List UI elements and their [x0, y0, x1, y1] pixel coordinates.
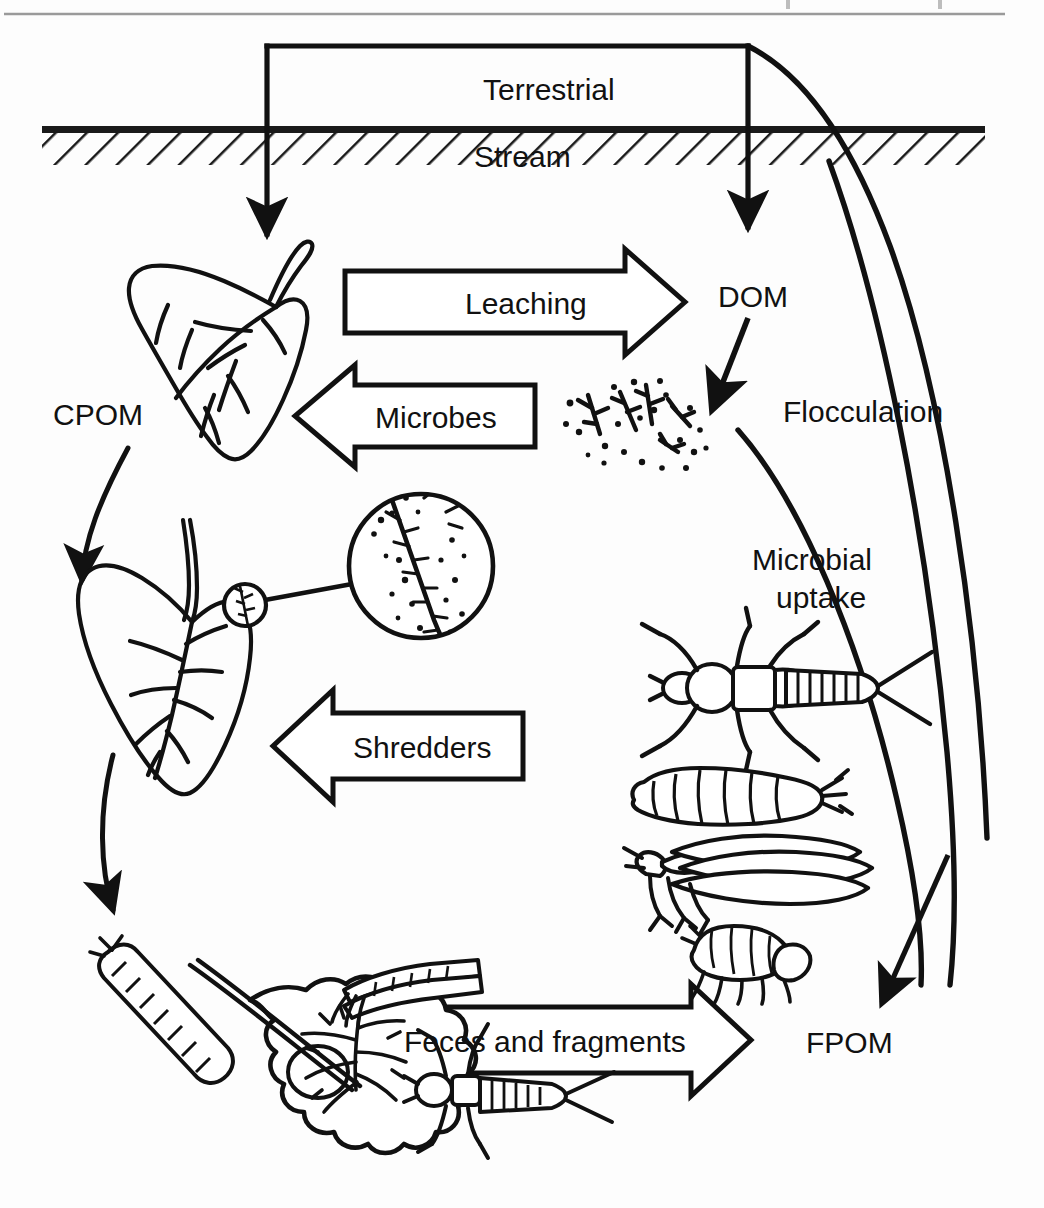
- process-label-microbial-uptake-line2: uptake: [776, 581, 866, 615]
- zone-label-stream: Stream: [474, 140, 571, 174]
- process-label-flocculation: Flocculation: [783, 395, 943, 429]
- block-arrow-label-shredders: Shredders: [353, 731, 491, 765]
- conditioned-leaf-drawing: [78, 520, 251, 794]
- whole-leaf-drawing: [129, 242, 313, 460]
- block-arrow-label-microbes: Microbes: [375, 401, 497, 435]
- dom-to-floc-arrow: [712, 318, 748, 410]
- stonefly-nymph-drawing: [642, 608, 932, 770]
- conditioned-to-shredded-arrow: [102, 755, 113, 910]
- page-top-rule: [4, 0, 1005, 14]
- pool-label-fpom: FPOM: [806, 1026, 893, 1060]
- cpom-to-conditioned-arrow: [82, 448, 128, 580]
- cranefly-larva-drawing: [632, 768, 852, 825]
- pool-label-cpom: CPOM: [53, 398, 143, 432]
- magnifier-leader-line: [265, 584, 352, 600]
- flocculated-particles: [563, 378, 709, 471]
- magnifier-source-circle: [224, 584, 266, 626]
- block-arrow-label-feces-and-fragments: Feces and fragments: [404, 1025, 686, 1059]
- process-label-microbial-uptake-line1: Microbial: [752, 543, 872, 577]
- figure-root: Terrestrial Stream CPOM DOM FPOM Floccul…: [0, 0, 1044, 1208]
- block-arrow-label-leaching: Leaching: [465, 287, 587, 321]
- cpom-cycle-arrows: [82, 448, 128, 910]
- pool-label-dom: DOM: [718, 280, 788, 314]
- magnifier-detail-circle: [349, 474, 493, 666]
- zone-label-terrestrial: Terrestrial: [483, 73, 615, 107]
- caddisfly-adult-drawing: [624, 836, 872, 934]
